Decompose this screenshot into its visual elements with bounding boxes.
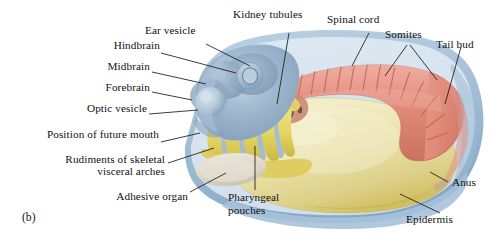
label-forebrain: Forebrain [2,81,150,94]
label-position-of-future-mouth: Position of future mouth [2,128,159,141]
label-kidney-tubules: Kidney tubules [233,8,302,21]
label-optic-vesicle: Optic vesicle [2,102,147,115]
leader-forebrain [152,92,192,100]
label-anus: Anus [452,176,476,189]
label-somites: Somites [385,28,422,41]
label-pharyngeal-line2: pouches [228,204,265,217]
figure-container: Hindbrain Midbrain Forebrain Optic vesic… [0,0,499,244]
leader-midbrain [152,72,206,84]
label-rudiments-line2: visceral arches [2,165,165,178]
label-pharyngeal-line1: Pharyngeal [228,191,279,204]
label-ear-vesicle: Ear vesicle [145,24,195,37]
label-tail-bud: Tail bud [436,38,474,51]
ear-vesicle-ring [237,63,263,90]
label-adhesive-organ: Adhesive organ [2,190,188,203]
label-hindbrain: Hindbrain [2,39,160,52]
label-midbrain: Midbrain [2,60,150,73]
label-epidermis: Epidermis [406,213,453,226]
leader-optic-vesicle [149,110,198,114]
panel-label: (b) [22,211,36,224]
label-spinal-cord: Spinal cord [327,13,379,26]
